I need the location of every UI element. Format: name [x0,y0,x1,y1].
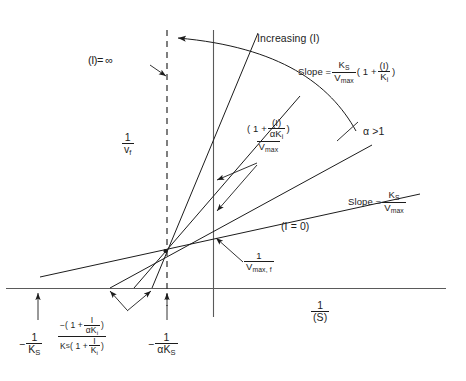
common-intersection-point [163,249,167,253]
line-increasing-inhibitor-3 [152,33,258,288]
x-intercept-apparent-label: − ( 1 + I αKi ) KS ( 1 + I Ki [57,316,107,356]
inhibitor-infinite-pointer [150,65,166,76]
line-increasing-inhibitor-1 [110,145,372,288]
y-intercept-apparent-label: 1 Vmax, f [243,251,275,274]
x-intercept-apparent-arrow-right [127,291,151,311]
slope-label-uninhibited: Slope = KS Vmax [348,190,407,214]
y-intercept-apparent-arrow [216,238,243,262]
x-intercept-limit-label: − 1 αKS [148,332,179,356]
alpha-condition-pointer [337,122,358,141]
x-intercept-uninhibited-label: − 1 KS [19,332,43,356]
y-intercept-limit-label: ( 1 + (I) αKi ) Vmax [244,118,293,153]
y-axis-label: 1 vf [121,132,135,156]
x-intercept-apparent-arrow-left [110,291,127,310]
alpha-condition-label: α >1 [363,126,384,137]
no-inhibitor-label: (I = 0) [281,221,309,232]
inhibitor-infinite-label: (I)= ∞ [88,55,113,67]
increasing-inhibitor-label: Increasing (I) [257,33,320,44]
x-axis-label: 1 (S) [310,300,330,323]
lineweaver-burk-figure: (I)= ∞ Increasing (I) Slope = KS Vmax ( … [0,0,466,381]
slope-label-inhibited: Slope = KS Vmax ( 1 + (I) Ki ) [298,60,395,84]
